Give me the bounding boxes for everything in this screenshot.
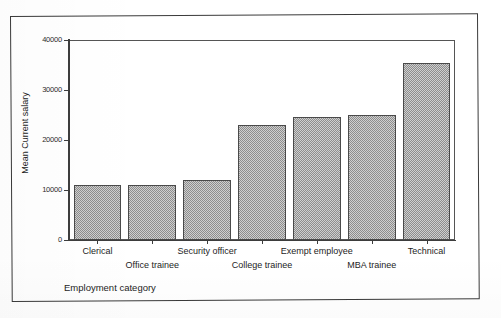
y-tick-mark [64,90,69,91]
x-tick-mark [317,240,318,244]
y-axis-title: Mean Current salary [20,78,30,188]
y-tick-label: 20000 [26,136,62,144]
x-category-label: Exempt employee [281,246,353,257]
bar [183,180,231,240]
y-tick-label-text: 0 [26,236,62,244]
y-tick-label: 40000 [26,36,62,44]
x-category-label: Clerical [82,246,112,257]
x-tick-mark [207,240,208,244]
bar [348,115,396,240]
y-tick-label: 10000 [26,186,62,194]
y-tick-label: 30000 [26,86,62,94]
x-tick-mark [97,240,98,244]
bar [403,63,451,240]
bar [293,117,341,240]
bar [238,125,286,240]
y-tick-mark [64,140,69,141]
y-tick-label-text: 30000 [26,86,62,94]
y-tick-mark [64,190,69,191]
x-category-label: MBA trainee [347,260,396,271]
x-category-label: Security officer [177,246,236,257]
x-tick-mark [152,240,153,244]
x-axis-title: Employment category [64,282,156,293]
bar [128,185,176,240]
x-category-label: Office trainee [126,260,179,271]
y-tick-label: 0 [26,236,62,244]
y-tick-mark [64,240,69,241]
x-tick-mark [372,240,373,244]
y-tick-label-text: 20000 [26,136,62,144]
bar [74,185,122,240]
x-category-label: College trainee [232,260,293,271]
bar-chart: 010000200003000040000 ClericalOffice tra… [0,0,501,318]
y-tick-label-text: 10000 [26,186,62,194]
y-tick-mark [64,40,69,41]
x-tick-mark [262,240,263,244]
x-category-label: Technical [408,246,446,257]
x-tick-mark [427,240,428,244]
y-tick-label-text: 40000 [26,36,62,44]
bars-group [70,40,454,240]
